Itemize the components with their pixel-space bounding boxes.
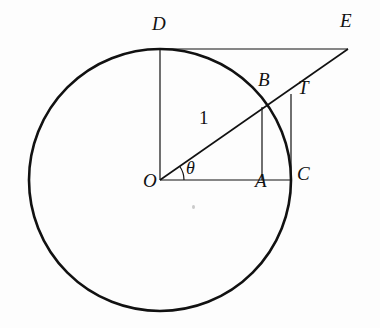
point-label-B: B	[258, 70, 270, 89]
geometry-figure: O A B C D E T 1 θ	[0, 0, 380, 328]
point-label-E: E	[340, 11, 352, 30]
scan-speck	[192, 205, 195, 209]
angle-arc-theta	[180, 166, 184, 180]
point-label-O: O	[143, 171, 157, 190]
point-label-D: D	[152, 14, 166, 33]
length-label-radius: 1	[199, 108, 209, 127]
point-label-T: T	[298, 78, 309, 97]
angle-label-theta: θ	[186, 159, 195, 177]
point-label-A: A	[255, 171, 267, 190]
point-label-C: C	[297, 164, 310, 183]
